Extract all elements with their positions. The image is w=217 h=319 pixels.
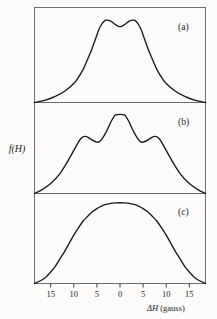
curves — [35, 20, 206, 283]
panel-label-b: (b) — [178, 117, 189, 128]
x-axis-tick-label: 15 — [46, 289, 55, 299]
x-axis-tick-label: 5 — [95, 289, 99, 299]
panel-frames — [35, 8, 206, 284]
x-axis-tick-label: 15 — [185, 289, 194, 299]
lineshape-figure: (a) (b) (c) f(H) 15105051015 ΔH (gauss) — [0, 0, 217, 319]
x-axis-label: ΔH (gauss) — [146, 303, 185, 313]
x-axis-ticks: 15105051015 — [46, 284, 193, 299]
x-axis-tick-label: 5 — [141, 289, 145, 299]
x-axis-tick-label: 0 — [118, 289, 122, 299]
panel-label-c: (c) — [178, 207, 189, 218]
panel-label-a: (a) — [178, 22, 189, 33]
lineshape-curve-a — [35, 20, 206, 102]
x-axis-label-symbol: ΔH — [146, 303, 159, 313]
x-axis-tick-label: 10 — [70, 289, 79, 299]
y-axis-label: f(H) — [9, 143, 26, 155]
x-axis-tick-label: 10 — [162, 289, 171, 299]
x-axis-label-units: (gauss) — [160, 303, 185, 313]
